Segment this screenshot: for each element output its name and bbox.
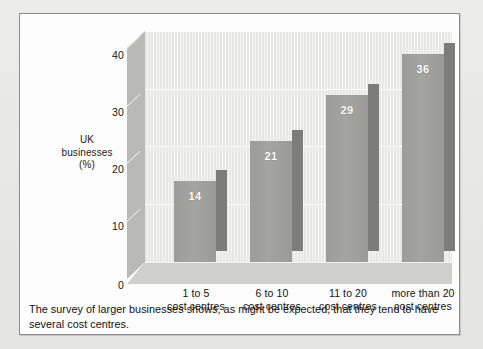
y-axis-title-line-2: businesses — [48, 147, 126, 160]
plot-floor — [127, 262, 452, 284]
bar-more-than-20[interactable]: 36 — [402, 54, 444, 262]
category-label-line-1: 1 to 5 — [152, 287, 240, 300]
left-wall-gridline-10 — [127, 209, 141, 222]
bar-side-face — [292, 130, 303, 251]
bar-side-face — [368, 84, 379, 252]
y-tick-label-10: 10 — [98, 220, 124, 232]
bar-6-to-10[interactable]: 21 — [250, 141, 292, 262]
y-tick-label-20: 20 — [98, 163, 124, 175]
left-wall-gridline-40 — [127, 36, 141, 49]
y-tick-label-0: 0 — [98, 279, 124, 291]
bar-11-to-20[interactable]: 29 — [326, 95, 368, 263]
bar-front-face: 36 — [402, 54, 444, 262]
figure-frame: UK businesses (%) 0 10 20 30 40 — [19, 13, 460, 335]
y-tick-label-40: 40 — [98, 49, 124, 61]
bar-chart: UK businesses (%) 0 10 20 30 40 — [20, 14, 459, 294]
bar-value-label: 29 — [326, 104, 368, 116]
bar-value-label: 14 — [174, 190, 216, 202]
y-tick-label-30: 30 — [98, 106, 124, 118]
bar-front-face: 21 — [250, 141, 292, 262]
bar-value-label: 36 — [402, 63, 444, 75]
category-label-line-1: 6 to 10 — [228, 287, 316, 300]
chart-scene: 14 21 29 — [127, 31, 452, 284]
bar-side-face — [444, 43, 455, 251]
category-label-line-1: more than 20 — [377, 287, 469, 300]
bar-1-to-5[interactable]: 14 — [174, 181, 216, 262]
plot-left-wall — [127, 31, 145, 279]
scanned-page: UK businesses (%) 0 10 20 30 40 — [0, 0, 483, 349]
left-wall-gridline-30 — [127, 94, 141, 107]
bar-value-label: 21 — [250, 150, 292, 162]
y-axis-title-line-1: UK — [48, 134, 126, 147]
bar-side-face — [216, 170, 227, 251]
figure-caption: The survey of larger businesses shows, a… — [29, 302, 451, 331]
left-wall-gridline-20 — [127, 151, 141, 164]
bar-front-face: 29 — [326, 95, 368, 263]
bar-front-face: 14 — [174, 181, 216, 262]
gridline-40 — [145, 31, 452, 32]
